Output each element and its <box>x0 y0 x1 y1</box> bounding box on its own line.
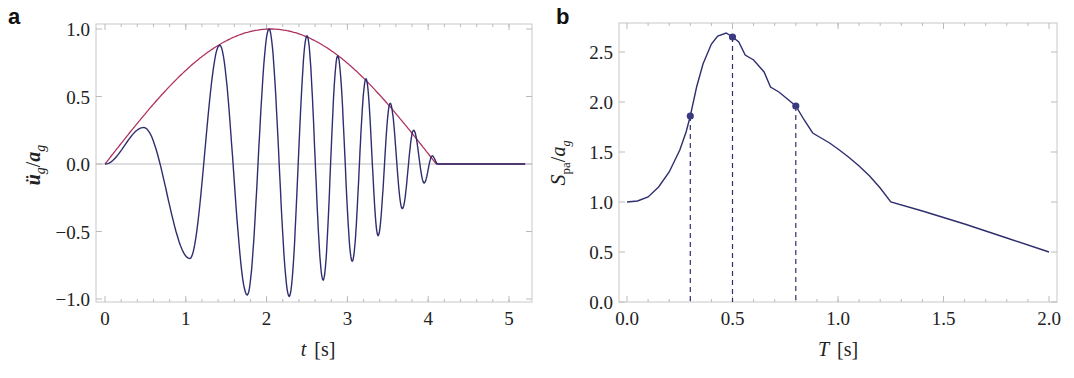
panel-b-ticks <box>619 23 1057 302</box>
data-point-marker <box>792 102 799 109</box>
x-tick-label: 3 <box>343 308 353 329</box>
panel-a-ticks <box>96 24 532 302</box>
x-tick-label: 5 <box>504 308 514 329</box>
x-tick-label: 0.0 <box>615 308 639 329</box>
y-tick-label: 1.5 <box>589 142 613 163</box>
y-tick-label: 2.5 <box>589 42 613 63</box>
y-tick-label: 0.5 <box>66 87 90 108</box>
panel-a-signal-line <box>105 29 525 296</box>
panel-b-frame <box>619 23 1057 302</box>
x-tick-label: 0.5 <box>721 308 745 329</box>
panel-a-ylabel: üg/ag <box>22 145 48 186</box>
data-point-marker <box>729 33 736 40</box>
y-tick-label: 2.0 <box>589 92 613 113</box>
x-tick-label: 1 <box>181 308 191 329</box>
panel-b-chart: b 0.00.51.01.52.02.52.01.51.00.50.0 Spa/… <box>545 4 1061 360</box>
figure: a 0123451.00.50.0−0.5−1.0 üg/ag t[s] b 0… <box>0 0 1074 378</box>
panel-a-letter: a <box>8 4 21 29</box>
y-tick-label: 0.0 <box>66 154 90 175</box>
y-tick-label: −1.0 <box>56 289 90 310</box>
x-tick-label: 1.5 <box>932 308 956 329</box>
panel-b-letter: b <box>556 4 569 29</box>
panel-b-ylabel: Spa/ag <box>545 141 573 186</box>
panel-b-markers <box>687 33 800 119</box>
panel-a-chart: a 0123451.00.50.0−0.5−1.0 üg/ag t[s] <box>8 4 532 360</box>
data-point-marker <box>687 112 694 119</box>
panel-a-frame <box>96 24 532 302</box>
y-tick-label: 0.0 <box>589 292 613 313</box>
y-tick-label: 1.0 <box>66 19 90 40</box>
y-tick-label: −0.5 <box>56 222 90 243</box>
panel-b-xlabel: T[s] <box>818 338 858 360</box>
y-tick-label: 1.0 <box>589 192 613 213</box>
y-tick-label: 0.5 <box>589 242 613 263</box>
x-tick-label: 4 <box>423 308 433 329</box>
x-tick-label: 1.0 <box>826 308 850 329</box>
panel-a-tick-labels: 0123451.00.50.0−0.5−1.0 <box>56 19 514 329</box>
x-tick-label: 2 <box>262 308 272 329</box>
panel-a-xlabel: t[s] <box>301 338 336 360</box>
x-tick-label: 2.0 <box>1037 308 1061 329</box>
x-tick-label: 0 <box>100 308 110 329</box>
panel-b-dashed-lines <box>690 37 796 302</box>
